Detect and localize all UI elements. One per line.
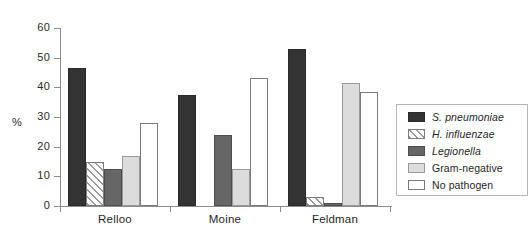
legend-swatch-icon [408,163,425,173]
y-axis-tick [54,117,60,118]
y-axis-tick [54,58,60,59]
legend-label: S. pneumoniae [432,111,504,123]
legend-item-h-influenzae[interactable]: H. influenzae [408,126,527,142]
bar-feldman-gram-negative [342,83,360,206]
bar-feldman-legionella [324,203,342,206]
x-axis-group-separator [60,206,61,212]
y-axis-tick-label: 20 [28,140,50,152]
legend-swatch-icon [408,112,425,122]
x-axis-group-separator [280,206,281,212]
y-axis-tick [54,147,60,148]
legend-item-gram-negative[interactable]: Gram-negative [408,160,527,176]
x-axis-group-separator [390,206,391,212]
x-axis-line [60,206,392,207]
bar-relloo-legionella [104,169,122,206]
y-axis-tick-label: 10 [28,169,50,181]
legend-label: No pathogen [432,179,493,191]
bar-moine-gram-negative [232,169,250,206]
bar-moine-no-pathogen [250,78,268,206]
y-axis-tick-label: 30 [28,110,50,122]
y-axis-tick [54,87,60,88]
x-axis-label-relloo: Relloo [60,213,170,225]
y-axis-tick-label: 0 [28,199,50,211]
y-axis-title: % [12,116,22,128]
y-axis-tick [54,176,60,177]
y-axis-tick-label: 60 [28,21,50,33]
bar-feldman-s-pneumoniae [288,49,306,206]
legend-label: H. influenzae [432,128,495,140]
legend-item-no-pathogen[interactable]: No pathogen [408,177,527,193]
bar-moine-legionella [214,135,232,206]
legend-swatch-icon [408,129,425,139]
chart-container: % 0102030405060 RellooMoineFeldman S. pn… [0,0,530,250]
bar-moine-s-pneumoniae [178,95,196,206]
x-axis-label-moine: Moine [170,213,280,225]
legend-swatch-icon [408,180,425,190]
legend-label: Legionella [432,145,481,157]
x-axis-label-feldman: Feldman [280,213,390,225]
bar-relloo-h-influenzae [86,162,104,206]
bar-feldman-no-pathogen [360,92,378,206]
legend-item-legionella[interactable]: Legionella [408,143,527,159]
bar-feldman-h-influenzae [306,197,324,206]
legend-item-s-pneumoniae[interactable]: S. pneumoniae [408,109,527,125]
bar-relloo-no-pathogen [140,123,158,206]
y-axis-tick-label: 40 [28,80,50,92]
y-axis-tick [54,28,60,29]
bar-relloo-s-pneumoniae [68,68,86,206]
y-axis-tick-label: 50 [28,51,50,63]
y-axis-line [60,28,61,206]
chart-legend: S. pneumoniaeH. influenzaeLegionellaGram… [396,104,528,196]
x-axis-group-separator [170,206,171,212]
bar-relloo-gram-negative [122,156,140,206]
legend-swatch-icon [408,146,425,156]
legend-label: Gram-negative [432,162,503,174]
